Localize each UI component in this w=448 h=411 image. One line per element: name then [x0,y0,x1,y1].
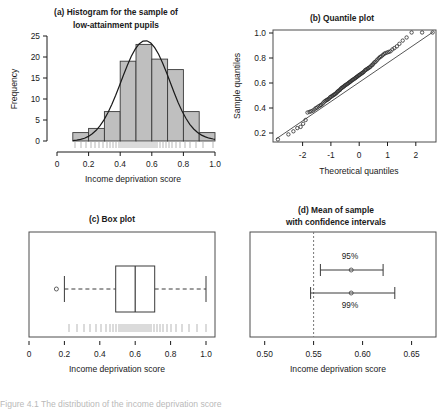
ci-xtick-065: 0.65 [403,349,420,359]
panel-c-title: (c) Box plot [89,214,135,224]
histogram-bar [120,61,136,141]
histogram-xtick-10: 1.0 [209,159,221,169]
histogram-xtick-08: 0.8 [178,159,190,169]
histogram-ytick-0: 0 [35,136,40,146]
quantile-plot-svg: (b) Quantile plot 1.0 0.8 0.6 0.4 0.2 Sa… [224,0,448,200]
histogram-y-axis-label: Frequency [9,68,19,109]
panel-d-confidence-intervals: (d) Mean of sample with confidence inter… [224,200,448,396]
panel-a-title-line2: low-attainment pupils [73,20,159,30]
boxplot-xtick-04: 0.4 [94,349,106,359]
histogram-xtick-02: 0.2 [83,159,95,169]
histogram-bar [199,133,215,141]
histogram-ytick-10: 10 [31,94,41,104]
histogram-svg: (a) Histogram for the sample of low-atta… [0,0,224,200]
ci-99-label: 99% [342,301,358,310]
quantile-ytick-10: 1.0 [254,28,266,38]
histogram-bar [136,44,152,141]
histogram-y-axis: 25 20 15 10 5 0 [31,31,47,146]
box-plot-elements [54,266,206,312]
quantile-xtick-0: 0 [357,150,362,160]
quantile-y-axis-label: Sample quantiles [232,53,242,119]
panel-b-title: (b) Quantile plot [310,13,374,23]
ci-xtick-050: 0.50 [257,349,274,359]
quantile-ytick-04: 0.4 [254,103,266,113]
quantile-ytick-08: 0.8 [254,53,266,63]
boxplot-xtick-02: 0.2 [59,349,71,359]
box-plot-rug [69,324,206,332]
quantile-plot-y-axis: 1.0 0.8 0.6 0.4 0.2 [254,28,273,138]
histogram-ytick-5: 5 [35,115,40,125]
boxplot-xtick-06: 0.6 [129,349,141,359]
ci-99-group: 99% [311,287,395,310]
panel-d-title-line2: with confidence intervals [285,217,386,227]
histogram-ytick-25: 25 [31,31,41,41]
ci-x-axis-label: Income deprivation score [290,364,386,374]
histogram-xtick-06: 0.6 [146,159,158,169]
ci-95-label: 95% [342,252,358,261]
histogram-ytick-20: 20 [31,52,41,62]
histogram-rug [75,142,213,148]
quantile-xtick-2: 2 [413,150,418,160]
histogram-xtick-04: 0.4 [114,159,126,169]
quantile-reference-line [276,32,433,139]
panel-b-quantile-plot: (b) Quantile plot 1.0 0.8 0.6 0.4 0.2 Sa… [224,0,448,200]
histogram-bars [73,44,215,141]
panel-c-box-plot: (c) Box plot [0,200,224,396]
boxplot-xtick-10: 1.0 [200,349,212,359]
quantile-xtick-neg1: -1 [327,150,335,160]
figure-caption: Figure 4.1 The distribution of the incom… [0,399,448,409]
quantile-ytick-02: 0.2 [254,128,266,138]
ci-plot-x-axis: 0.50 0.55 0.60 0.65 [257,341,421,359]
ci-xtick-055: 0.55 [305,349,322,359]
quantile-x-axis-label: Theoretical quantiles [319,166,398,176]
quantile-plot-x-axis: -2 -1 0 1 2 [299,142,419,160]
boxplot-xtick-08: 0.8 [165,349,177,359]
panel-d-title-line1: (d) Mean of sample [298,205,374,215]
quantile-xtick-neg2: -2 [299,150,307,160]
ci-95-group: 95% [320,252,383,276]
panel-a-histogram: (a) Histogram for the sample of low-atta… [0,0,224,200]
statistical-figure: (a) Histogram for the sample of low-atta… [0,0,448,411]
histogram-bar [152,59,168,141]
ci-plot-frame [250,232,436,337]
histogram-x-axis-label: Income deprivation score [85,174,181,184]
boxplot-x-axis-label: Income deprivation score [69,364,165,374]
confidence-intervals-svg: (d) Mean of sample with confidence inter… [224,200,448,396]
box-plot-outlier [54,287,58,291]
box-plot-x-axis: 0 0.2 0.4 0.6 0.8 1.0 [27,341,212,359]
histogram-xtick-0: 0 [55,159,60,169]
ci-xtick-060: 0.60 [354,349,371,359]
boxplot-xtick-0: 0 [27,349,32,359]
histogram-ytick-15: 15 [31,73,41,83]
quantile-xtick-1: 1 [385,150,390,160]
panel-a-title-line1: (a) Histogram for the sample of [54,7,178,17]
box-plot-svg: (c) Box plot [0,200,224,396]
histogram-x-axis: 0 0.2 0.4 0.6 0.8 1.0 [55,152,221,169]
quantile-ytick-06: 0.6 [254,78,266,88]
